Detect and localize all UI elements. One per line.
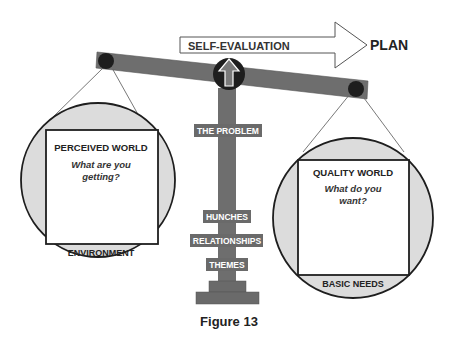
self-evaluation-arrow: SELF-EVALUATION xyxy=(180,22,367,68)
right-question-line1: What do you xyxy=(325,183,382,194)
svg-text:HUNCHES: HUNCHES xyxy=(206,212,248,222)
self-evaluation-label: SELF-EVALUATION xyxy=(188,40,290,52)
column-label-hunches: HUNCHES xyxy=(203,210,251,223)
column-label-relationships: RELATIONSHIPS xyxy=(190,234,263,247)
scale-base xyxy=(196,281,259,304)
perceived-world-title: PERCEIVED WORLD xyxy=(54,142,148,153)
scale-column xyxy=(218,88,236,284)
column-label-themes: THEMES xyxy=(206,258,248,271)
plan-label: PLAN xyxy=(370,37,408,53)
right-question-line2: want? xyxy=(339,195,367,206)
basic-needs-label: BASIC NEEDS xyxy=(322,279,384,289)
left-pan: PERCEIVED WORLD What are you getting? EN… xyxy=(21,103,175,258)
left-question-line2: getting? xyxy=(81,171,120,182)
left-question-line1: What are you xyxy=(71,159,131,170)
fulcrum-hub xyxy=(213,58,245,90)
balance-scale-diagram: SELF-EVALUATION PLAN THE PROBLEM HUNCHES… xyxy=(0,0,457,350)
svg-text:THEMES: THEMES xyxy=(209,260,245,270)
right-pan: QUALITY WORLD What do you want? BASIC NE… xyxy=(273,138,433,298)
right-pivot xyxy=(348,81,364,97)
figure-caption: Figure 13 xyxy=(200,314,258,329)
environment-label: ENVIRONMENT xyxy=(68,248,135,258)
svg-text:RELATIONSHIPS: RELATIONSHIPS xyxy=(193,236,262,246)
quality-world-title: QUALITY WORLD xyxy=(313,167,393,178)
svg-text:THE PROBLEM: THE PROBLEM xyxy=(197,126,259,136)
column-label-problem: THE PROBLEM xyxy=(194,124,262,137)
left-pivot xyxy=(98,53,114,69)
